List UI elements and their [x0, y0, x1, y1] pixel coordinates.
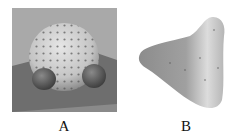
dome-render-image	[12, 8, 117, 112]
figure-panel-a	[12, 8, 117, 112]
panel-label-b: B	[176, 118, 196, 135]
cone-render-image	[130, 8, 240, 112]
figure-panel-b	[130, 8, 240, 112]
panel-label-a: A	[54, 118, 74, 135]
